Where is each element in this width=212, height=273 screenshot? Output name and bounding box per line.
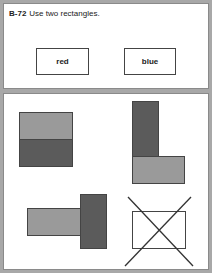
cross-out-x-icon <box>0 0 212 273</box>
